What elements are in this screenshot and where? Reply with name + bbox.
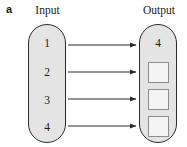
output-item-2-empty-square: [148, 62, 169, 83]
input-item-2-label: 2: [44, 67, 50, 79]
input-column-header: Input: [25, 5, 70, 17]
input-item-1: 1: [29, 31, 65, 57]
diagram-figure: a Input Output 1 2 3 4 4: [0, 0, 187, 147]
output-item-3-empty-square: [148, 89, 169, 110]
input-container: 1 2 3 4: [28, 24, 66, 143]
input-item-3: 3: [29, 88, 65, 114]
output-column-header: Output: [135, 5, 183, 17]
output-item-1-label: 4: [155, 38, 161, 50]
output-item-4-empty-square: [148, 116, 169, 137]
panel-letter: a: [6, 4, 12, 15]
input-item-2: 2: [29, 60, 65, 86]
output-container: 4: [139, 24, 177, 143]
input-item-3-label: 3: [44, 95, 50, 107]
output-item-1: 4: [140, 31, 176, 57]
input-item-4: 4: [29, 115, 65, 141]
input-item-1-label: 1: [44, 38, 50, 50]
input-item-4-label: 4: [44, 122, 50, 134]
